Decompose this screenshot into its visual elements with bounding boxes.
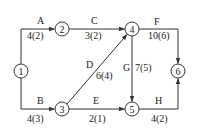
node-4-label: 4 [130, 24, 135, 35]
network-diagram: A 4(2) B 4(3) C 3(2) D 6(4) E 2(1) F 10(… [0, 0, 200, 133]
node-4: 4 [125, 22, 139, 36]
node-5-label: 5 [130, 104, 135, 115]
node-5: 5 [125, 102, 139, 116]
activity-e-name: E [93, 95, 99, 106]
activity-c-name: C [91, 15, 98, 26]
node-2-label: 2 [60, 24, 65, 35]
activity-f-name: F [154, 16, 160, 27]
node-6: 6 [171, 64, 185, 78]
activity-c: C 3(2) [69, 15, 125, 42]
activity-e: E 2(1) [69, 95, 125, 125]
node-2: 2 [55, 22, 69, 36]
activity-b: B 4(3) [21, 78, 55, 125]
activity-a-name: A [37, 15, 45, 26]
activity-g-name: G [123, 62, 130, 73]
activity-h-duration: 4(2) [151, 113, 168, 125]
activity-f: F 10(6) [139, 16, 178, 64]
activity-d: D 6(4) [67, 35, 127, 105]
activity-f-duration: 10(6) [148, 30, 170, 42]
node-3: 3 [55, 102, 69, 116]
node-6-label: 6 [176, 66, 181, 77]
activity-c-duration: 3(2) [85, 30, 102, 42]
node-1-label: 1 [19, 66, 24, 77]
activity-g: G 7(5) [123, 36, 152, 102]
node-1: 1 [14, 64, 28, 78]
node-3-label: 3 [60, 104, 65, 115]
activity-h: H 4(2) [139, 79, 178, 126]
activity-d-duration: 6(4) [96, 70, 113, 82]
activity-d-name: D [86, 59, 93, 70]
activity-b-name: B [37, 95, 44, 106]
activity-e-duration: 2(1) [89, 113, 106, 125]
activity-a-duration: 4(2) [27, 30, 44, 42]
activity-g-duration: 7(5) [135, 62, 152, 74]
activity-a: A 4(2) [21, 15, 55, 64]
activity-h-name: H [155, 95, 162, 106]
activity-b-duration: 4(3) [27, 113, 44, 125]
